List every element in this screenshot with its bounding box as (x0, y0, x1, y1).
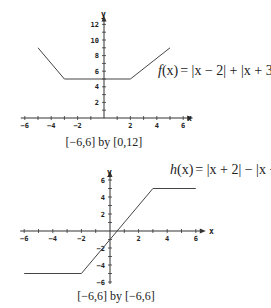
graph-h-y-axis-label: y (107, 168, 112, 177)
graph-h-window-caption: [−6,6] by [−6,6] (77, 289, 155, 303)
x-tick-label: −6 (20, 235, 28, 243)
y-tick-label: 4 (95, 83, 99, 91)
graph-f-x-axis-label: x (187, 114, 192, 123)
x-tick-label: 6 (194, 235, 198, 243)
x-tick-label: −6 (21, 122, 29, 130)
x-tick-label: −2 (77, 235, 85, 243)
graph-h-formula: h(x)= |x + 2| − |x − 3| (170, 162, 271, 178)
graph-h: −6−4−2246−6−4−2246 (20, 171, 206, 287)
y-tick-label: 2 (101, 211, 105, 219)
y-tick-label: 6 (95, 68, 99, 76)
graph-f-window-caption: [−6,6] by [0,12] (66, 135, 143, 149)
y-tick-label: −4 (97, 262, 105, 270)
y-tick-label: 12 (91, 21, 99, 29)
x-tick-label: −4 (47, 122, 55, 130)
y-tick-label: 4 (101, 194, 105, 202)
y-tick-label: 8 (95, 52, 99, 60)
x-tick-label: 4 (155, 122, 159, 130)
x-tick-label: 6 (181, 122, 185, 130)
x-tick-label: 2 (136, 235, 140, 243)
graph-f-y-axis-label: y (101, 10, 106, 19)
y-tick-label: 2 (95, 99, 99, 107)
x-tick-label: −4 (49, 235, 57, 243)
y-tick-label: −2 (97, 245, 105, 253)
x-tick-label: 2 (128, 122, 132, 130)
y-tick-label: 10 (91, 37, 99, 45)
y-tick-label: 6 (101, 177, 105, 185)
x-axis-arrow-icon (200, 229, 206, 234)
graph-h-x-axis-label: x (209, 227, 214, 236)
x-tick-label: 4 (165, 235, 169, 243)
x-tick-label: −2 (73, 122, 81, 130)
y-tick-label: −6 (97, 279, 105, 287)
chart-canvas: −6−4−224624681012 −6−4−2246−6−4−2246 y x… (0, 0, 271, 308)
graph-f-formula: f(x)= |x − 2| + |x + 3| (158, 63, 271, 79)
